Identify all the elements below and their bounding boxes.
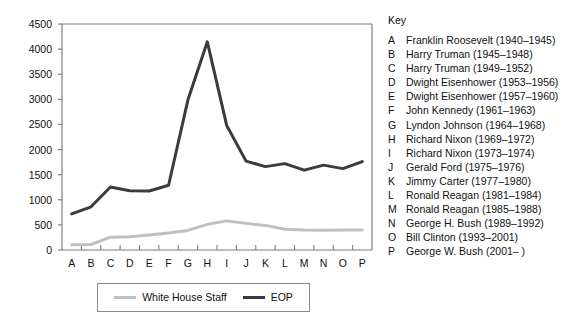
legend-label: EOP [271, 292, 293, 303]
key-item-description: Dwight Eisenhower (1957–1960) [406, 89, 558, 103]
key-item-description: Richard Nixon (1969–1972) [406, 132, 534, 146]
x-axis-tick-label: O [333, 258, 353, 269]
y-axis-tick-label: 3500 [14, 69, 52, 80]
key-item-letter: M [388, 202, 406, 216]
y-axis-tick-label: 2500 [14, 119, 52, 130]
key-item-letter: I [388, 146, 406, 160]
key-item-description: Harry Truman (1945–1948) [406, 47, 533, 61]
y-axis-tick-label: 500 [14, 220, 52, 231]
key-item-letter: H [388, 132, 406, 146]
key-item-description: George H. Bush (1989–1992) [406, 216, 544, 230]
key-item-letter: O [388, 230, 406, 244]
line-chart-svg [0, 0, 380, 275]
key-item-description: Richard Nixon (1973–1974) [406, 146, 534, 160]
key-list: AFranklin Roosevelt (1940–1945)BHarry Tr… [388, 33, 573, 259]
key-item-description: Franklin Roosevelt (1940–1945) [406, 33, 555, 47]
key-item: OBill Clinton (1993–2001) [388, 230, 573, 244]
x-axis-tick-label: J [236, 258, 256, 269]
legend-label: White House Staff [142, 292, 226, 303]
x-axis-tick-label: E [139, 258, 159, 269]
key-item: PGeorge W. Bush (2001– ) [388, 244, 573, 258]
key-item: IRichard Nixon (1973–1974) [388, 146, 573, 160]
x-axis-tick-label: I [217, 258, 237, 269]
key-item: GLyndon Johnson (1964–1968) [388, 118, 573, 132]
plot-area: 050010001500200025003000350040004500 ABC… [0, 0, 380, 275]
x-axis-tick-label: H [197, 258, 217, 269]
y-axis-tick-label: 1000 [14, 195, 52, 206]
key-item: HRichard Nixon (1969–1972) [388, 132, 573, 146]
key-item-letter: A [388, 33, 406, 47]
key-item-description: John Kennedy (1961–1963) [406, 103, 536, 117]
x-axis-tick-label: F [159, 258, 179, 269]
series-line-eop [72, 42, 363, 214]
x-axis-tick-label: P [352, 258, 372, 269]
chart-legend: White House StaffEOP [97, 283, 310, 312]
key-item-description: Harry Truman (1949–1952) [406, 61, 533, 75]
key-item-description: Lyndon Johnson (1964–1968) [406, 118, 545, 132]
legend-entry: White House Staff [114, 292, 226, 303]
key-item: EDwight Eisenhower (1957–1960) [388, 89, 573, 103]
y-axis-tick-label: 4000 [14, 44, 52, 55]
key-item: NGeorge H. Bush (1989–1992) [388, 216, 573, 230]
key-item: DDwight Eisenhower (1953–1956) [388, 75, 573, 89]
key-item-letter: J [388, 160, 406, 174]
x-axis-tick-label: M [294, 258, 314, 269]
key-panel: Key AFranklin Roosevelt (1940–1945)BHarr… [388, 14, 573, 259]
x-axis-tick-label: C [100, 258, 120, 269]
chart-page: 050010001500200025003000350040004500 ABC… [0, 0, 573, 329]
key-item: KJimmy Carter (1977–1980) [388, 174, 573, 188]
key-item-letter: G [388, 118, 406, 132]
x-axis-tick-label: D [120, 258, 140, 269]
legend-swatch [114, 296, 136, 299]
key-item: AFranklin Roosevelt (1940–1945) [388, 33, 573, 47]
key-item-letter: K [388, 174, 406, 188]
y-axis-tick-label: 2000 [14, 145, 52, 156]
y-axis-tick-label: 3000 [14, 94, 52, 105]
legend-entry: EOP [243, 292, 293, 303]
series-line-white-house-staff [72, 221, 363, 245]
key-item-description: Ronald Reagan (1981–1984) [406, 188, 541, 202]
key-item: BHarry Truman (1945–1948) [388, 47, 573, 61]
key-item: JGerald Ford (1975–1976) [388, 160, 573, 174]
key-item-letter: C [388, 61, 406, 75]
x-axis-tick-label: K [255, 258, 275, 269]
key-item: MRonald Reagan (1985–1988) [388, 202, 573, 216]
y-axis-tick-label: 0 [14, 245, 52, 256]
x-axis-ticks [81, 245, 352, 250]
key-item-description: Dwight Eisenhower (1953–1956) [406, 75, 558, 89]
x-axis-tick-label: A [62, 258, 82, 269]
legend-swatch [243, 296, 265, 300]
x-axis-tick-label: G [178, 258, 198, 269]
key-item-letter: L [388, 188, 406, 202]
key-item-letter: P [388, 244, 406, 258]
key-item-letter: D [388, 75, 406, 89]
y-axis-tick-label: 4500 [14, 19, 52, 30]
key-title: Key [388, 14, 573, 26]
key-item-description: Jimmy Carter (1977–1980) [406, 174, 531, 188]
key-item-letter: N [388, 216, 406, 230]
key-item-letter: F [388, 103, 406, 117]
x-axis-tick-label: N [314, 258, 334, 269]
key-item-description: Gerald Ford (1975–1976) [406, 160, 525, 174]
key-item-letter: B [388, 47, 406, 61]
key-item-description: Ronald Reagan (1985–1988) [406, 202, 541, 216]
x-axis-tick-label: L [275, 258, 295, 269]
x-axis-tick-label: B [81, 258, 101, 269]
key-item-description: Bill Clinton (1993–2001) [406, 230, 518, 244]
key-item: CHarry Truman (1949–1952) [388, 61, 573, 75]
y-axis-tick-label: 1500 [14, 170, 52, 181]
key-item-letter: E [388, 89, 406, 103]
key-item-description: George W. Bush (2001– ) [406, 244, 525, 258]
key-item: LRonald Reagan (1981–1984) [388, 188, 573, 202]
key-item: FJohn Kennedy (1961–1963) [388, 103, 573, 117]
